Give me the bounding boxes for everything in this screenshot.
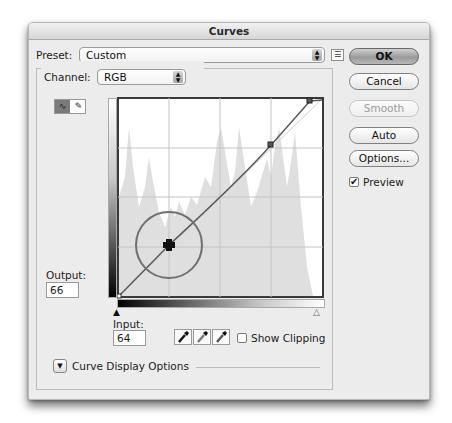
black-point-slider-icon[interactable]: ▲ [113,307,120,317]
options-button[interactable]: Options... [349,150,419,167]
disclosure-triangle-icon[interactable]: ▼ [53,359,67,373]
curve-graph[interactable] [117,97,325,299]
input-field[interactable]: 64 [113,330,146,346]
section-divider [196,367,320,368]
channel-select[interactable]: RGB ▲▼ [97,69,186,85]
input-label: Input: [113,318,144,330]
ok-button[interactable]: OK [349,48,419,65]
preset-label: Preset: [36,49,72,61]
control-point [307,98,312,103]
preview-label: Preview [363,176,404,188]
preview-checkbox[interactable]: ✔ [349,177,359,187]
channel-label: Channel: [44,71,91,83]
preset-options-icon[interactable]: ☰ [331,49,344,61]
show-clipping-checkbox[interactable] [237,333,247,343]
gray-point-eyedropper-icon[interactable] [193,329,211,345]
popup-arrows-icon: ▲▼ [173,71,183,83]
eyedropper-group [174,329,230,345]
auto-button[interactable]: Auto [349,127,419,144]
input-gradient-bar [117,299,325,308]
channel-value: RGB [104,71,127,83]
output-gradient-bar [108,98,117,298]
output-label: Output: [46,269,86,281]
control-point [268,142,273,147]
curve-display-options-label[interactable]: Curve Display Options [72,360,189,372]
curve-edit-tool-icon[interactable]: ∿ [55,100,70,113]
white-point-eyedropper-icon[interactable] [212,329,230,345]
show-clipping-label: Show Clipping [251,332,325,344]
popup-arrows-icon: ▲▼ [312,49,322,61]
white-point-slider-icon[interactable]: △ [313,307,320,317]
pencil-tool-icon[interactable]: ✎ [71,100,86,113]
curves-dialog: Curves Preset: Custom ▲▼ ☰ OK Cancel Smo… [28,22,430,400]
control-point [117,294,121,298]
cancel-button[interactable]: Cancel [349,73,419,90]
curve-tool-group: ∿ ✎ [54,99,86,114]
black-point-eyedropper-icon[interactable] [174,329,192,345]
preset-value: Custom [86,49,126,61]
output-field[interactable]: 66 [46,282,79,298]
title-bar[interactable]: Curves [29,23,429,40]
smooth-button[interactable]: Smooth [349,100,419,117]
